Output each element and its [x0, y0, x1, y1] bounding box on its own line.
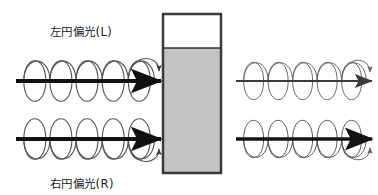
- circular-dichroism-diagram: 左円偏光(L) 右円偏光(R): [0, 0, 378, 195]
- beam-transmitted-left-circular: [236, 60, 372, 100]
- beam-transmitted-right-circular: [236, 120, 372, 160]
- diagram-canvas: 左円偏光(L) 右円偏光(R): [0, 0, 378, 195]
- cuvette-solution: [163, 48, 221, 173]
- sample-cuvette: [163, 14, 221, 173]
- cuvette-headspace: [163, 14, 221, 48]
- beam-incident-left-circular: [16, 59, 161, 102]
- label-right-circular-polarization: 右円偏光(R): [50, 177, 114, 191]
- label-left-circular-polarization: 左円偏光(L): [50, 25, 112, 39]
- beam-incident-right-circular: [16, 119, 161, 162]
